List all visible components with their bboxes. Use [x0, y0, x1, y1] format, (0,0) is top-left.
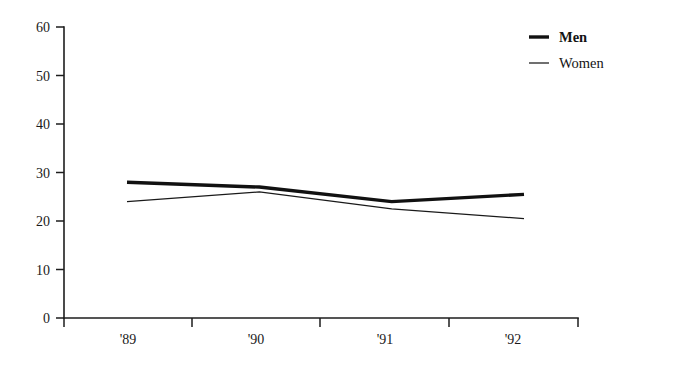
y-tick-label-10: 10	[36, 263, 50, 278]
y-tick-label-60: 60	[36, 20, 50, 35]
line-chart: 60 50 40 30 20 10 0 '89 '90 '91 '92 Men …	[0, 0, 686, 369]
y-tick-label-20: 20	[36, 214, 50, 229]
y-tick-label-30: 30	[36, 166, 50, 181]
x-tick-label-91: '91	[377, 332, 394, 347]
y-tick-label-50: 50	[36, 69, 50, 84]
legend-label-women: Women	[559, 55, 604, 71]
legend-label-men: Men	[559, 29, 587, 45]
x-tick-label-92: '92	[505, 332, 522, 347]
chart-plot-area: 60 50 40 30 20 10 0 '89 '90 '91 '92 Men …	[0, 0, 686, 369]
x-tick-label-89: '89	[120, 332, 137, 347]
y-tick-label-0: 0	[43, 311, 50, 326]
chart-legend: Men Women	[529, 29, 604, 71]
x-tick-label-90: '90	[248, 332, 265, 347]
series-line-men	[127, 182, 524, 201]
y-tick-label-40: 40	[36, 117, 50, 132]
